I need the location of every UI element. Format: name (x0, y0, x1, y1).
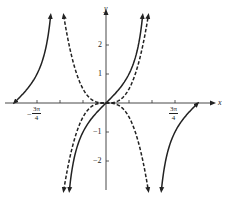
chart-plot (0, 0, 225, 197)
tan-branch-left (15, 16, 51, 102)
tan-branch-right (161, 104, 197, 190)
x-tick-label-3pi-4: 3π 4 (169, 105, 178, 122)
neg-sign: − (27, 110, 32, 119)
y-tick-label-neg1: −1 (93, 127, 102, 136)
y-tick-label-neg2: −2 (93, 156, 102, 165)
frac-numerator: 3π (32, 105, 41, 114)
frac-numerator: 3π (169, 105, 178, 114)
x-axis-label: x (218, 98, 222, 107)
y-tick-label-2: 2 (98, 40, 102, 49)
frac-denominator: 4 (32, 114, 41, 122)
y-tick-label-1: 1 (98, 69, 102, 78)
x-tick-label-neg-3pi-4: 3π 4 (32, 105, 41, 122)
y-axis-label: y (104, 4, 108, 13)
frac-denominator: 4 (169, 114, 178, 122)
